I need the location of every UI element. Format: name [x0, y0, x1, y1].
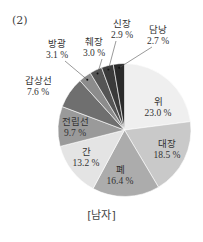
- slice-label: 위: [154, 96, 163, 107]
- leader-dot: [107, 69, 109, 71]
- slice-label: 신장: [113, 18, 131, 29]
- chart-caption: [남자]: [0, 206, 203, 222]
- slice-value: 13.2 %: [73, 158, 100, 168]
- slice-label: 췌장: [85, 36, 103, 47]
- slice-value: 7.6 %: [27, 87, 49, 97]
- slice-value: 3.1 %: [46, 50, 68, 60]
- slice-label: 간: [82, 146, 91, 157]
- slice-value: 18.5 %: [154, 150, 181, 160]
- slice-label: 담낭: [149, 24, 167, 35]
- slice-value: 2.7 %: [147, 36, 169, 46]
- slice-value: 23.0 %: [145, 108, 172, 118]
- slice-label: 갑상선: [25, 75, 52, 86]
- leader-line: [65, 61, 87, 80]
- slice-label: 방광: [48, 38, 66, 49]
- slice-value: 16.4 %: [107, 176, 134, 186]
- leader-dot: [97, 73, 99, 75]
- slice-value: 2.9 %: [111, 30, 133, 40]
- slice-label: 폐: [116, 164, 125, 175]
- slice-label: 전립선: [62, 116, 89, 127]
- slice-value: 3.0 %: [83, 48, 105, 58]
- leader-dot: [86, 79, 88, 81]
- slice-label: 대장: [158, 138, 176, 149]
- leader-dot: [118, 67, 120, 69]
- slice-value: 9.7 %: [64, 128, 86, 138]
